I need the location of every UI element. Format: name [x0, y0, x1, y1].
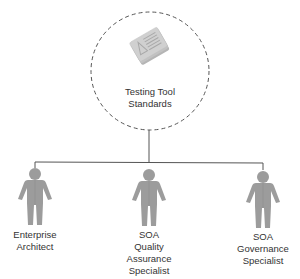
center-node-label-line-2: Standards: [125, 98, 175, 110]
document-stack-icon: [129, 27, 170, 66]
center-node-boundary: [91, 12, 209, 130]
person-icon-governance: [246, 171, 280, 228]
soa-quality-assurance-specialist-label: SOA Quality Assurance Specialist: [127, 229, 172, 277]
label-line: SOA: [127, 229, 172, 241]
label-line: Assurance: [127, 253, 172, 265]
horizontal-connector: [35, 162, 263, 163]
soa-governance-specialist-label: SOA Governance Specialist: [237, 231, 289, 267]
center-node-label-line-1: Testing Tool: [125, 86, 175, 98]
label-line: Governance: [237, 243, 289, 255]
label-line: Enterprise: [13, 229, 56, 241]
center-node-label: Testing Tool Standards: [125, 86, 175, 110]
label-line: SOA: [237, 231, 289, 243]
label-line: Quality: [127, 241, 172, 253]
enterprise-architect-label: Enterprise Architect: [13, 229, 56, 253]
label-line: Specialist: [127, 265, 172, 277]
person-icon-quality-assurance: [132, 169, 166, 226]
person-icon-enterprise-architect: [18, 168, 52, 225]
label-line: Architect: [13, 241, 56, 253]
label-line: Specialist: [237, 255, 289, 267]
